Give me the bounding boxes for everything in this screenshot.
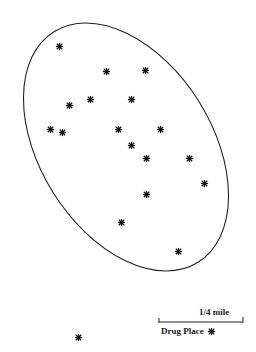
asterisk-icon [58,128,67,137]
asterisk-icon [200,179,209,188]
map-canvas [0,0,256,352]
asterisk-icon [142,190,151,199]
asterisk-icon [156,125,165,134]
asterisk-icon [185,154,194,163]
asterisk-icon [142,154,151,163]
hotspot-ellipse [0,0,256,308]
asterisk-icon [74,333,83,342]
asterisk-icon [207,327,216,336]
asterisk-icon [174,247,183,256]
asterisk-icon [86,95,95,104]
asterisk-icon [65,101,74,110]
legend-marker-label: Drug Place [161,326,204,336]
asterisk-icon [114,125,123,134]
scale-bar [159,317,243,323]
legend: Drug Place [161,326,216,336]
asterisk-icon [46,125,55,134]
asterisk-icon [127,141,136,150]
asterisk-icon [102,67,111,76]
asterisk-icon [55,42,64,51]
asterisk-icon [127,95,136,104]
scale-label: 1/4 mile [199,307,229,317]
asterisk-icon [117,218,126,227]
asterisk-icon [141,66,150,75]
